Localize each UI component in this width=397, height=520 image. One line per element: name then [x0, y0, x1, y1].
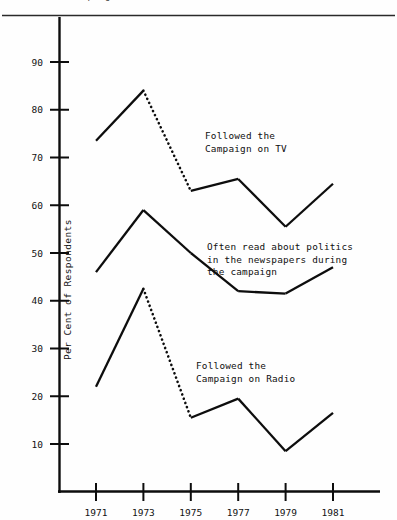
annotation-newspapers-line-2: the campaign	[207, 266, 277, 277]
series-0-segment-1979-1981	[286, 184, 333, 227]
series-2-segment-1975-1977	[191, 399, 238, 418]
y-tick-label-50: 50	[32, 248, 44, 259]
series-0-segment-1977-1979	[238, 179, 285, 227]
annotation-tv-line-0: Followed the	[205, 130, 275, 141]
line-chart-canvas: 102030405060708090 197119731975197719791…	[0, 0, 397, 520]
series-1-segment-1979-1981	[286, 267, 333, 293]
y-tick-label-20: 20	[32, 391, 44, 402]
x-tick-label-1977: 1977	[227, 507, 250, 518]
series-0-segment-1971-1973	[96, 91, 143, 141]
annotation-radio: Followed theCampaign on Radio	[196, 360, 296, 384]
series-0-segment-1975-1977	[191, 179, 238, 191]
x-axis-ticks: 197119731975197719791981	[85, 483, 345, 518]
y-tick-label-70: 70	[32, 152, 44, 163]
x-tick-label-1973: 1973	[132, 507, 155, 518]
y-tick-label-40: 40	[32, 295, 44, 306]
annotation-radio-line-1: Campaign on Radio	[196, 373, 296, 384]
chart-figure: Campaign, 1971-81 102030405060708090 197…	[0, 0, 397, 520]
y-axis-title: Per Cent of Respondents	[62, 219, 73, 360]
series-1-segment-1973-1975	[143, 210, 190, 253]
series-2-segment-1973-1975	[143, 289, 190, 418]
series-2-segment-1979-1981	[286, 413, 333, 451]
annotations-group: Followed theCampaign on TVOften read abo…	[196, 130, 353, 384]
y-tick-label-60: 60	[32, 200, 44, 211]
x-tick-label-1979: 1979	[274, 507, 297, 518]
x-tick-label-1975: 1975	[179, 507, 202, 518]
annotation-radio-line-0: Followed the	[196, 360, 266, 371]
series-2-segment-1977-1979	[238, 399, 285, 452]
series-0-segment-1973-1975	[143, 91, 190, 191]
annotation-tv: Followed theCampaign on TV	[205, 130, 287, 154]
series-1-segment-1977-1979	[238, 291, 285, 293]
annotation-newspapers: Often read about politicsin the newspape…	[207, 241, 353, 277]
x-tick-label-1971: 1971	[85, 507, 108, 518]
annotation-newspapers-line-1: in the newspapers during	[207, 254, 347, 265]
y-tick-label-30: 30	[32, 343, 44, 354]
y-tick-label-10: 10	[32, 439, 44, 450]
y-tick-label-90: 90	[32, 57, 44, 68]
x-tick-label-1981: 1981	[322, 507, 345, 518]
annotation-tv-line-1: Campaign on TV	[205, 143, 287, 154]
annotation-newspapers-line-0: Often read about politics	[207, 241, 353, 252]
y-tick-label-80: 80	[32, 104, 44, 115]
series-1-segment-1971-1973	[96, 210, 143, 272]
series-2-segment-1971-1973	[96, 289, 143, 387]
